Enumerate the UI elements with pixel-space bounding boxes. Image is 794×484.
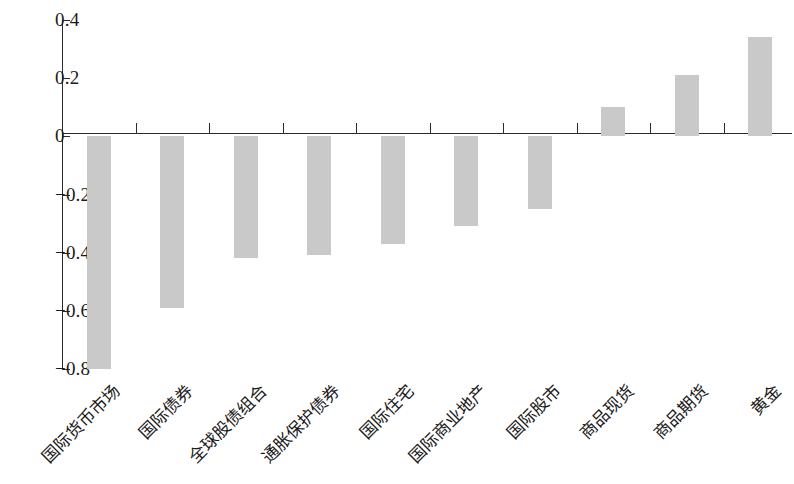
x-axis-label: 商品期货 — [647, 378, 713, 444]
x-tick-mark — [724, 123, 725, 133]
x-tick-mark — [209, 123, 210, 133]
x-tick-mark — [283, 123, 284, 133]
bar — [748, 37, 772, 136]
bar — [160, 136, 184, 308]
x-axis-label: 国际股市 — [500, 378, 566, 444]
x-axis-label: 商品现货 — [573, 378, 639, 444]
x-axis-label: 国际住宅 — [353, 378, 419, 444]
bar — [528, 136, 552, 209]
x-axis-label: 国际债券 — [132, 378, 198, 444]
x-tick-mark — [577, 123, 578, 133]
bar — [234, 136, 258, 258]
bar — [675, 75, 699, 136]
x-axis-label: 黄金 — [744, 378, 786, 420]
x-tick-mark — [650, 123, 651, 133]
x-tick-mark — [356, 123, 357, 133]
bar — [87, 136, 111, 369]
x-tick-mark — [503, 123, 504, 133]
x-tick-mark — [136, 123, 137, 133]
bar — [454, 136, 478, 226]
x-tick-mark — [430, 123, 431, 133]
bar — [601, 107, 625, 136]
x-axis-label: 国际货币市场 — [35, 378, 125, 468]
bar — [307, 136, 331, 255]
bar-chart: 0.40.20−0.2−0.4−0.6−0.8 国际货币市场国际债券全球股债组合… — [0, 0, 794, 484]
bar — [381, 136, 405, 244]
